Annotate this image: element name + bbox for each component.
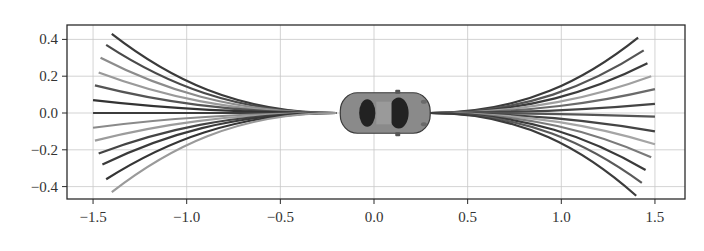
backward-fan-curve bbox=[95, 85, 337, 113]
forward-fan-curve bbox=[430, 38, 638, 113]
y-tick-label: 0.4 bbox=[39, 31, 58, 47]
y-axis: 0.40.20.0−0.2−0.4 bbox=[31, 31, 67, 194]
car-mirror bbox=[395, 132, 400, 136]
car-headlight bbox=[421, 100, 427, 104]
x-tick-label: −1.5 bbox=[79, 209, 106, 225]
car-mirror bbox=[395, 90, 400, 94]
x-tick-label: 1.5 bbox=[646, 209, 665, 225]
car-rear-window bbox=[359, 99, 375, 127]
forward-fan-curve bbox=[430, 113, 636, 196]
trajectory-chart: −1.5−1.0−0.50.00.51.01.5 0.40.20.0−0.2−0… bbox=[0, 0, 704, 251]
x-axis: −1.5−1.0−0.50.00.51.01.5 bbox=[79, 199, 664, 225]
car-icon bbox=[340, 90, 430, 136]
car-headlight bbox=[421, 122, 427, 126]
car-windshield bbox=[389, 98, 409, 129]
y-tick-label: −0.2 bbox=[31, 142, 58, 158]
car-roof bbox=[376, 102, 391, 125]
backward-fan-curve bbox=[112, 113, 337, 192]
x-tick-label: −1.0 bbox=[173, 209, 200, 225]
y-tick-label: 0.0 bbox=[39, 105, 58, 121]
y-tick-label: −0.4 bbox=[31, 179, 59, 195]
x-tick-label: 0.0 bbox=[365, 209, 384, 225]
x-tick-label: 1.0 bbox=[552, 209, 571, 225]
y-tick-label: 0.2 bbox=[39, 68, 58, 84]
x-tick-label: −0.5 bbox=[267, 209, 294, 225]
x-tick-label: 0.5 bbox=[458, 209, 477, 225]
